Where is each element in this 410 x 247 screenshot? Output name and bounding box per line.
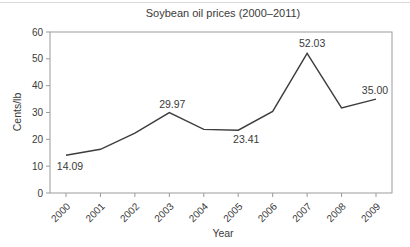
x-tick-label: 2004 [187,200,211,224]
soybean-oil-price-figure: Soybean oil prices (2000–2011) Cents/lb … [0,0,410,247]
y-tick-label: 40 [32,80,44,91]
y-tick-label: 0 [37,188,43,199]
data-label: 35.00 [362,84,388,96]
data-label: 14.09 [57,160,83,172]
x-tick-label: 2006 [256,200,280,224]
plot-area: 0102030405060200020012002200320042005200… [0,0,410,247]
price-line [66,53,376,155]
y-tick-label: 20 [32,134,44,145]
x-tick-label: 2007 [290,200,314,224]
x-tick-label: 2008 [324,200,348,224]
plot-border [50,32,392,193]
y-tick-label: 10 [32,161,44,172]
y-tick-label: 30 [32,107,44,118]
y-tick-label: 50 [32,53,44,64]
y-tick-label: 60 [32,27,44,38]
x-tick-label: 2001 [83,200,107,224]
data-label: 29.97 [159,98,185,110]
x-axis-title: Year [36,227,410,239]
x-tick-label: 2003 [152,200,176,224]
x-tick-label: 2000 [49,200,73,224]
data-label: 23.41 [233,133,259,145]
x-tick-label: 2005 [221,200,245,224]
x-tick-label: 2009 [359,200,383,224]
x-tick-label: 2002 [118,200,142,224]
data-label: 52.03 [299,37,325,49]
